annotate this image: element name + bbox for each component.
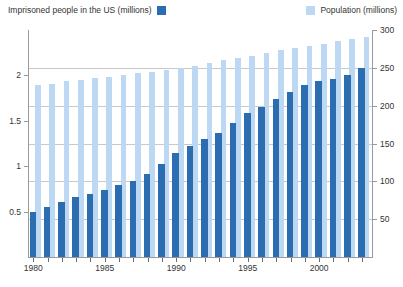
y-axis-right-tick [373, 144, 377, 145]
bar-imprisoned [315, 81, 322, 257]
bar-imprisoned [130, 181, 137, 257]
y-axis-left-label: 1.5 [9, 117, 21, 126]
bar-imprisoned [30, 212, 37, 257]
x-axis-tick [90, 258, 91, 262]
bar-imprisoned [330, 79, 337, 257]
x-axis-tick [305, 258, 306, 262]
x-axis-tick [362, 258, 363, 262]
x-axis-tick [262, 258, 263, 262]
x-axis-tick [33, 258, 34, 262]
bar-imprisoned [187, 146, 194, 257]
y-axis-right-label: 100 [380, 177, 394, 186]
x-axis-tick [333, 258, 334, 262]
bar-group [186, 30, 200, 257]
x-axis-tick [76, 258, 77, 262]
bar-group [172, 30, 186, 257]
x-axis-label: 1995 [238, 263, 257, 274]
bar-group [301, 30, 315, 257]
y-axis-right-label: 250 [380, 64, 394, 73]
x-axis-tick [133, 258, 134, 262]
y-axis-right-tick [373, 106, 377, 107]
bar-imprisoned [215, 133, 222, 257]
bar-group [201, 30, 215, 257]
bar-imprisoned [273, 99, 280, 257]
y-axis-left-label: 1 [16, 162, 21, 171]
x-axis-labels: 19801985199019952000 [0, 263, 403, 277]
x-axis-tick [319, 258, 320, 262]
y-axis-left-tick [24, 212, 28, 213]
y-axis-left-label: 0.5 [9, 208, 21, 217]
population-swatch [306, 6, 315, 15]
bar-imprisoned [301, 85, 308, 257]
y-axis-left-tick [24, 75, 28, 76]
x-axis-tick [348, 258, 349, 262]
x-axis-tick [233, 258, 234, 262]
x-axis-label: 1985 [95, 263, 114, 274]
bar-imprisoned [44, 207, 51, 257]
bar-imprisoned [258, 107, 265, 257]
bar-group [229, 30, 243, 257]
x-axis-label: 1980 [24, 263, 43, 274]
y-axis-right-tick [373, 68, 377, 69]
bar-group [100, 30, 114, 257]
bar-group [215, 30, 229, 257]
y-axis-left-tick [24, 121, 28, 122]
bar-imprisoned [244, 113, 251, 257]
bar-group [258, 30, 272, 257]
x-axis-tick [291, 258, 292, 262]
bar-group [343, 30, 357, 257]
x-axis-tick [219, 258, 220, 262]
y-axis-right-tick [373, 181, 377, 182]
bar-group [143, 30, 157, 257]
x-axis-tick [48, 258, 49, 262]
y-axis-left-label: 2 [16, 71, 21, 80]
y-axis-right-tick [373, 219, 377, 220]
y-axis-right-label: 50 [380, 215, 389, 224]
bar-imprisoned [201, 139, 208, 257]
chart-page: Imprisoned people in the US (millions) P… [0, 0, 403, 287]
bar-series-container [29, 30, 372, 257]
x-axis-tick [162, 258, 163, 262]
x-axis-tick [205, 258, 206, 262]
bar-imprisoned [87, 194, 94, 257]
bar-imprisoned [358, 68, 365, 257]
x-axis-label: 1990 [167, 263, 186, 274]
x-axis-tick [105, 258, 106, 262]
bar-group [286, 30, 300, 257]
bar-imprisoned [158, 164, 165, 257]
bar-group [115, 30, 129, 257]
y-axis-right-tick [373, 30, 377, 31]
bar-imprisoned [144, 174, 151, 257]
chart-legend: Imprisoned people in the US (millions) P… [0, 4, 403, 20]
bar-imprisoned [344, 75, 351, 257]
x-axis-tick [119, 258, 120, 262]
x-axis-tick [62, 258, 63, 262]
bar-group [272, 30, 286, 257]
x-axis-tick [276, 258, 277, 262]
x-axis-tick [148, 258, 149, 262]
bar-imprisoned [72, 197, 79, 257]
x-axis-label: 2000 [310, 263, 329, 274]
bar-imprisoned [172, 153, 179, 257]
bar-group [243, 30, 257, 257]
x-axis-tick [176, 258, 177, 262]
imprisoned-swatch [157, 6, 166, 15]
legend-label-population: Population (millions) [320, 4, 397, 16]
plot-area: 0.511.52 50100150200250300 [28, 30, 373, 258]
bar-group [315, 30, 329, 257]
y-axis-left-tick [24, 166, 28, 167]
bar-group [58, 30, 72, 257]
y-axis-right-label: 200 [380, 102, 394, 111]
bar-group [329, 30, 343, 257]
x-axis-tick [190, 258, 191, 262]
bar-imprisoned [101, 190, 108, 257]
bar-group [86, 30, 100, 257]
y-axis-right-label: 150 [380, 140, 394, 149]
bar-group [158, 30, 172, 257]
legend-item-population: Population (millions) [306, 4, 397, 16]
bar-imprisoned [58, 202, 65, 257]
bar-group [72, 30, 86, 257]
legend-label-imprisoned: Imprisoned people in the US (millions) [8, 4, 152, 16]
bar-group [43, 30, 57, 257]
x-axis-tick [248, 258, 249, 262]
